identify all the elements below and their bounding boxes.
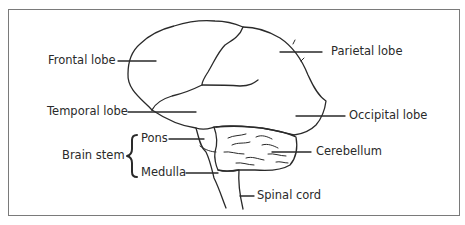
label-brain-stem: Brain stem bbox=[62, 150, 125, 162]
brain-stem-left bbox=[196, 128, 226, 208]
brain-diagram: Frontal lobe Parietal lobe Temporal lobe… bbox=[0, 0, 465, 225]
label-parietal-lobe: Parietal lobe bbox=[331, 46, 402, 58]
cerebellum-folia bbox=[224, 134, 288, 165]
brain-stem-right bbox=[214, 127, 243, 209]
temporal-lobe-edge bbox=[152, 80, 258, 110]
label-temporal-lobe: Temporal lobe bbox=[47, 106, 128, 118]
cerebrum-outline bbox=[128, 21, 326, 135]
label-frontal-lobe: Frontal lobe bbox=[48, 55, 116, 67]
cerebrum-bottom bbox=[152, 110, 294, 135]
label-medulla: Medulla bbox=[141, 167, 186, 179]
brain-stem-brace bbox=[127, 135, 137, 177]
label-spinal-cord: Spinal cord bbox=[257, 190, 321, 202]
label-pons: Pons bbox=[141, 133, 168, 145]
cerebellum-outline bbox=[216, 126, 297, 171]
label-occipital-lobe: Occipital lobe bbox=[349, 110, 427, 122]
label-cerebellum: Cerebellum bbox=[316, 146, 382, 158]
central-sulcus bbox=[202, 27, 243, 85]
